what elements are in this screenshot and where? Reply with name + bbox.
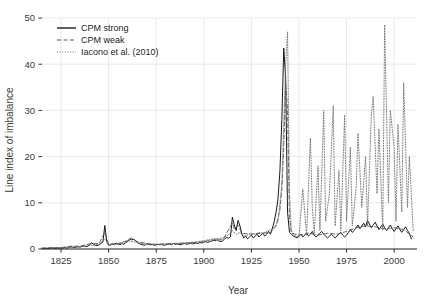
y-tick-label-20: 20 [24, 151, 35, 162]
x-tick-label-1825: 1825 [50, 255, 71, 266]
x-tick-label-1875: 1875 [146, 255, 167, 266]
legend-label-1: CPM weak [81, 35, 125, 45]
y-axis-label: Line index of imbalance [4, 87, 15, 193]
x-tick-label-1975: 1975 [336, 255, 357, 266]
x-tick-label-1925: 1925 [241, 255, 262, 266]
y-tick-label-50: 50 [24, 12, 35, 23]
y-tick-label-0: 0 [30, 243, 35, 254]
legend-label-2: Iacono et al. (2010) [81, 47, 159, 57]
chart-figure: 18251850187519001925195019752000 0102030… [0, 0, 427, 303]
y-tick-label-10: 10 [24, 197, 35, 208]
x-tick-label-1950: 1950 [288, 255, 309, 266]
line-chart: 18251850187519001925195019752000 0102030… [0, 0, 427, 303]
x-tick-label-2000: 2000 [384, 255, 405, 266]
y-tick-label-40: 40 [24, 59, 35, 70]
x-axis-label: Year [228, 285, 249, 296]
y-tick-label-30: 30 [24, 105, 35, 116]
x-tick-label-1900: 1900 [193, 255, 214, 266]
x-tick-label-1850: 1850 [98, 255, 119, 266]
legend-label-0: CPM strong [81, 23, 129, 33]
